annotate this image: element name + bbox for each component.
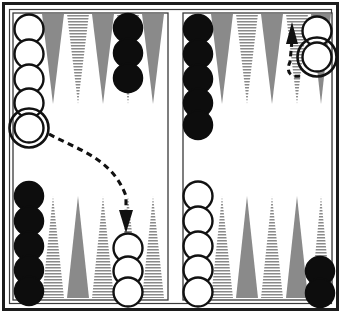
checker-stack-white-left-bottom <box>114 234 143 307</box>
right-board <box>183 13 337 308</box>
backgammon-diagram <box>0 0 341 313</box>
checker-white <box>184 278 213 307</box>
checker-stack-black-right-top <box>184 15 213 140</box>
checker-stack-white-right-bottom <box>184 182 213 307</box>
checker-black <box>184 111 213 140</box>
checker-stack-black-right-bottom <box>306 257 335 308</box>
checker-black <box>15 277 44 306</box>
checker-black <box>306 279 335 308</box>
checker-stack-black-left-bottom <box>15 182 44 306</box>
checker-black <box>114 64 143 93</box>
checker-white-highlighted <box>303 43 332 72</box>
left-board <box>10 13 169 307</box>
checker-white-highlighted <box>15 114 44 143</box>
checker-stack-white-left-top <box>10 15 49 148</box>
checker-white <box>114 278 143 307</box>
checker-stack-black-left-top <box>114 14 143 93</box>
backgammon-svg <box>0 0 341 313</box>
